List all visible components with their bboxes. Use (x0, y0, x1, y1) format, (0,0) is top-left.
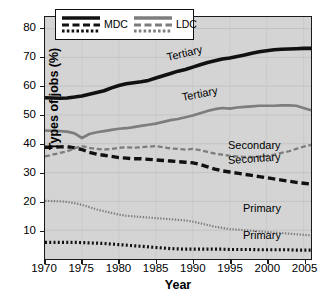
legend-entry-mdc: MDC (56, 16, 128, 33)
x-tick-mark (230, 259, 232, 264)
legend-dotted-icon (61, 29, 101, 33)
legend-solid-icon (61, 16, 101, 20)
legend-entry-ldc: LDC (128, 16, 197, 33)
series-line (45, 242, 311, 250)
x-tick-label: 1990 (173, 263, 213, 275)
legend-label-ldc: LDC (176, 19, 197, 30)
y-tick-label: 30 (10, 167, 36, 179)
legend-dashed-icon (61, 23, 101, 27)
curve-label-primary: Primary (243, 203, 281, 214)
curve-label-primary: Primary (243, 230, 281, 241)
x-tick-label: 1980 (98, 263, 138, 275)
x-tick-mark (305, 259, 307, 264)
legend-swatch-ldc (133, 16, 173, 33)
y-tick-label: 70 (10, 51, 36, 63)
x-tick-mark (44, 259, 46, 264)
chart-legend: MDC LDC (55, 9, 194, 40)
y-tick-label: 50 (10, 109, 36, 121)
x-tick-mark (193, 259, 195, 264)
y-axis-title: Types of jobs (%) (47, 39, 61, 159)
legend-dashed-icon (133, 23, 173, 27)
chart-figure: 1020304050607080 TertiaryTertiarySeconda… (0, 0, 327, 297)
legend-dotted-icon (133, 29, 173, 33)
curve-label-secondary: Secondary (228, 140, 281, 151)
x-tick-label: 1970 (24, 263, 64, 275)
y-tick-label: 10 (10, 225, 36, 237)
y-tick-label: 80 (10, 22, 36, 34)
series-line (45, 105, 311, 138)
x-tick-mark (118, 259, 120, 264)
y-tick-label: 40 (10, 138, 36, 150)
x-tick-mark (81, 259, 83, 264)
x-tick-label: 1985 (136, 263, 176, 275)
x-axis-title: Year (44, 278, 312, 292)
y-tick-label: 20 (10, 196, 36, 208)
x-tick-label: 1975 (61, 263, 101, 275)
x-tick-mark (267, 259, 269, 264)
x-tick-label: 2000 (247, 263, 287, 275)
legend-solid-icon (133, 16, 173, 20)
legend-swatch-mdc (61, 16, 101, 33)
x-tick-label: 1995 (210, 263, 250, 275)
x-tick-label: 2005 (285, 263, 325, 275)
x-tick-mark (156, 259, 158, 264)
legend-label-mdc: MDC (104, 19, 128, 30)
y-tick-label: 60 (10, 80, 36, 92)
